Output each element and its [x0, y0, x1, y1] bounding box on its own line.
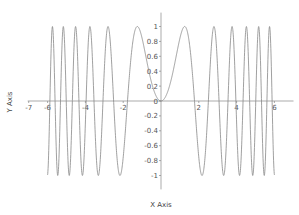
x-tick-label: 6	[272, 104, 277, 112]
x-tick-label: -6	[44, 104, 52, 112]
y-axis-title: Y Axis	[6, 91, 14, 113]
y-tick-label: -1	[151, 172, 158, 180]
y-tick-label: 0.8	[147, 38, 158, 46]
x-axis-title: X Axis	[150, 201, 172, 209]
y-tick-label: -0.2	[144, 112, 158, 120]
y-tick-label: 0.6	[147, 53, 159, 61]
x-tick-label: 4	[234, 104, 239, 112]
tick-labels: -7-6-4-2246-1-0.8-0.6-0.4-0.200.20.40.60…	[25, 23, 277, 180]
x-tick-label: 2	[197, 104, 201, 112]
y-tick-label: 1	[154, 23, 158, 31]
x-tick-label: -7	[25, 104, 32, 112]
y-tick-label: -0.4	[144, 127, 158, 135]
x-tick-label: -2	[120, 104, 127, 112]
y-tick-label: -0.6	[144, 142, 158, 150]
y-tick-label: -0.8	[144, 157, 158, 165]
chart: -7-6-4-2246-1-0.8-0.6-0.4-0.200.20.40.60…	[0, 0, 299, 215]
